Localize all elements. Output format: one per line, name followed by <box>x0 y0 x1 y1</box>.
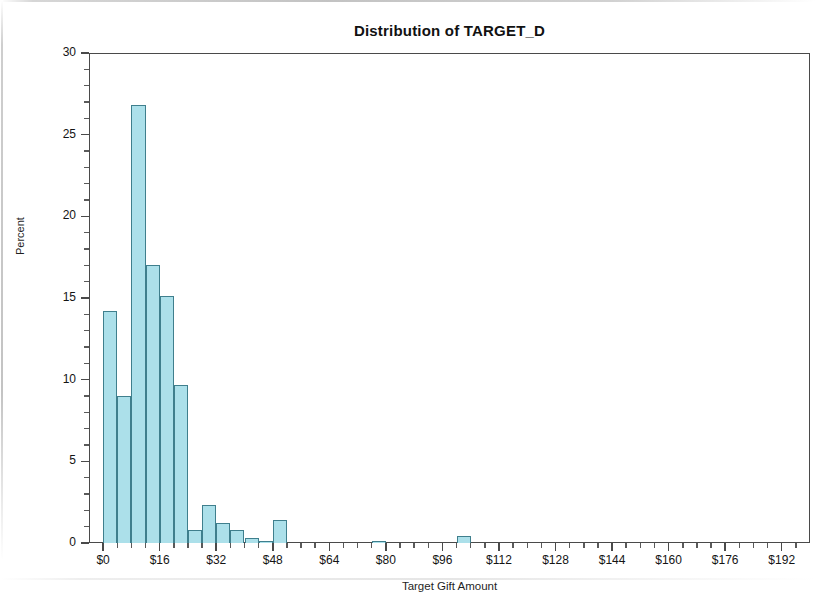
x-axis-minor-tick <box>541 543 543 548</box>
x-axis-minor-tick <box>314 543 316 548</box>
histogram-bar <box>230 530 244 543</box>
x-axis-minor-tick <box>413 543 415 548</box>
x-axis-tick-mark <box>555 543 557 551</box>
x-axis-minor-tick <box>710 543 712 548</box>
histogram-bar <box>245 538 259 543</box>
x-axis-tick-label: $16 <box>130 553 190 567</box>
x-axis-minor-tick <box>795 543 797 548</box>
x-axis-tick-mark <box>272 543 274 551</box>
y-axis-tick-mark <box>81 52 89 54</box>
y-axis-tick-label: 10 <box>40 372 76 386</box>
x-axis-minor-tick <box>753 543 755 548</box>
x-axis-tick-label: $96 <box>412 553 472 567</box>
x-axis-minor-tick <box>343 543 345 548</box>
x-axis-minor-tick <box>131 543 133 548</box>
x-axis-tick-mark <box>215 543 217 551</box>
x-axis-tick-mark <box>385 543 387 551</box>
x-axis-tick-mark <box>668 543 670 551</box>
x-axis-minor-tick <box>654 543 656 548</box>
chart-title: Distribution of TARGET_D <box>89 22 810 39</box>
x-axis-tick-label: $160 <box>639 553 699 567</box>
y-axis-tick-mark <box>81 297 89 299</box>
x-axis-minor-tick <box>145 543 147 548</box>
x-axis-minor-tick <box>739 543 741 548</box>
x-axis-minor-tick <box>300 543 302 548</box>
y-axis-tick-label: 5 <box>40 453 76 467</box>
x-axis-tick-mark <box>329 543 331 551</box>
x-axis-tick-label: $0 <box>73 553 133 567</box>
histogram-bar <box>146 265 160 543</box>
x-axis-minor-tick <box>696 543 698 548</box>
x-axis-minor-tick <box>470 543 472 548</box>
x-axis-tick-mark <box>611 543 613 551</box>
y-axis-tick-label: 30 <box>40 45 76 59</box>
x-axis-minor-tick <box>201 543 203 548</box>
histogram-figure: Distribution of TARGET_D Percent 0510152… <box>0 0 815 614</box>
y-axis-tick-label: 0 <box>40 535 76 549</box>
x-axis-tick-mark <box>159 543 161 551</box>
x-axis-minor-tick <box>286 543 288 548</box>
y-axis-label: Percent <box>14 217 26 255</box>
x-axis-tick-mark <box>442 543 444 551</box>
x-axis-tick-mark <box>102 543 104 551</box>
x-axis-minor-tick <box>597 543 599 548</box>
histogram-bar <box>259 541 273 543</box>
histogram-bar <box>202 505 216 543</box>
x-axis-minor-tick <box>173 543 175 548</box>
x-axis-minor-tick <box>117 543 119 548</box>
x-axis-tick-mark <box>724 543 726 551</box>
y-axis-tick-mark <box>81 134 89 136</box>
x-axis-minor-tick <box>428 543 430 548</box>
x-axis-tick-label: $32 <box>186 553 246 567</box>
y-axis-tick-mark <box>81 542 89 544</box>
y-axis-tick-mark <box>81 461 89 463</box>
histogram-bar <box>103 311 117 543</box>
y-axis-tick-mark <box>81 379 89 381</box>
x-axis-minor-tick <box>682 543 684 548</box>
x-axis-tick-label: $144 <box>582 553 642 567</box>
x-axis-minor-tick <box>583 543 585 548</box>
x-axis-minor-tick <box>456 543 458 548</box>
histogram-bar <box>273 520 287 543</box>
histogram-bar <box>131 105 145 543</box>
x-axis-minor-tick <box>357 543 359 548</box>
x-axis-minor-tick <box>371 543 373 548</box>
x-axis-label: Target Gift Amount <box>89 580 810 592</box>
x-axis-tick-mark <box>781 543 783 551</box>
x-axis-minor-tick <box>244 543 246 548</box>
x-axis-tick-label: $192 <box>752 553 812 567</box>
histogram-bar <box>160 296 174 543</box>
histogram-bar <box>372 541 386 543</box>
x-axis-minor-tick <box>258 543 260 548</box>
histogram-bar <box>216 523 230 543</box>
y-axis-tick-label: 15 <box>40 290 76 304</box>
x-axis-tick-label: $80 <box>356 553 416 567</box>
y-axis-tick-label: 25 <box>40 127 76 141</box>
x-axis-tick-label: $64 <box>299 553 359 567</box>
x-axis-minor-tick <box>399 543 401 548</box>
histogram-bar <box>117 396 131 543</box>
y-axis-tick-mark <box>81 216 89 218</box>
y-axis-tick-label: 20 <box>40 208 76 222</box>
x-axis-minor-tick <box>230 543 232 548</box>
x-axis-minor-tick <box>767 543 769 548</box>
histogram-bar <box>174 385 188 543</box>
x-axis-minor-tick <box>625 543 627 548</box>
x-axis-minor-tick <box>512 543 514 548</box>
x-axis-minor-tick <box>187 543 189 548</box>
x-axis-minor-tick <box>640 543 642 548</box>
x-axis-minor-tick <box>484 543 486 548</box>
x-axis-tick-label: $176 <box>695 553 755 567</box>
histogram-bar <box>188 530 202 543</box>
plot-area <box>89 53 810 543</box>
x-axis-tick-label: $48 <box>243 553 303 567</box>
x-axis-minor-tick <box>527 543 529 548</box>
histogram-bar <box>457 536 471 543</box>
x-axis-tick-label: $128 <box>526 553 586 567</box>
x-axis-tick-mark <box>498 543 500 551</box>
x-axis-minor-tick <box>569 543 571 548</box>
x-axis-tick-label: $112 <box>469 553 529 567</box>
